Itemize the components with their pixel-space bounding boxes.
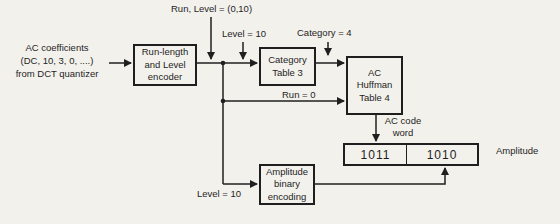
ac-code-word-label-line1: AC code	[379, 115, 427, 127]
category-table-box-line2: Table 3	[272, 67, 303, 80]
ac-code-word-label-line2: word	[379, 127, 427, 139]
run0-label: Run = 0	[282, 89, 316, 101]
ac-huffman-table-box-line2: Huffman	[357, 79, 393, 92]
category-table-box-line1: Category	[268, 54, 307, 67]
ac-huffman-table-box-line3: Table 4	[359, 92, 390, 105]
run-length-encoder-box-line3: encoder	[148, 71, 182, 84]
code-word-box: 1011 1010	[343, 143, 479, 166]
junction-dot-upper	[221, 61, 226, 66]
category4-annotation-label: Category = 4	[297, 27, 352, 39]
ac-code-word-label: AC code word	[379, 115, 427, 139]
level10-top-annotation-label: Level = 10	[222, 28, 266, 40]
run-level-annotation-label: Run, Level = (0,10)	[171, 3, 252, 15]
amplitude-binary-encoding-box: Amplitude binary encoding	[259, 164, 315, 205]
junction-dot-lower	[221, 99, 226, 104]
run-length-encoder-box-line2: and Level	[144, 59, 185, 72]
amplitude-binary-encoding-box-line3: encoding	[268, 191, 307, 204]
ac-huffman-table-box-line1: AC	[368, 67, 381, 80]
run-length-encoder-box: Run-length and Level encoder	[133, 44, 197, 86]
arrow-amplitude-to-codeword	[315, 168, 445, 184]
code-word-cell-huffman: 1011	[345, 145, 407, 164]
amplitude-binary-encoding-box-line2: binary	[274, 178, 300, 191]
code-word-cell-amplitude: 1010	[407, 145, 477, 164]
input-label-line1: AC coefficients	[0, 41, 114, 54]
level10-bottom-label: Level = 10	[197, 188, 241, 200]
ac-huffman-table-box: AC Huffman Table 4	[346, 56, 403, 115]
input-label: AC coefficients (DC, 10, 3, 0, ....) fro…	[0, 41, 114, 80]
amplitude-output-label: Amplitude	[496, 145, 538, 157]
input-label-line3: from DCT quantizer	[0, 67, 114, 80]
input-label-line2: (DC, 10, 3, 0, ....)	[0, 54, 114, 67]
amplitude-binary-encoding-box-line1: Amplitude	[266, 166, 308, 179]
encoder-block-diagram: AC coefficients (DC, 10, 3, 0, ....) fro…	[0, 0, 560, 224]
category-table-box: Category Table 3	[259, 47, 316, 86]
run-length-encoder-box-line1: Run-length	[142, 46, 188, 59]
